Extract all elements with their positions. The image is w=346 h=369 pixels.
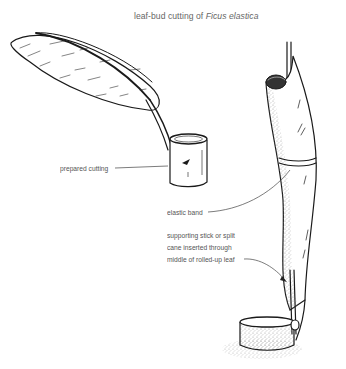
illustration xyxy=(0,0,346,369)
rolled-leaf-illustration xyxy=(266,42,316,340)
label-support-line-2: cane inserted through xyxy=(167,242,232,254)
label-support-line-3: middle of rolled-up leaf xyxy=(167,254,235,266)
leader-support xyxy=(244,259,285,280)
cutting-stub xyxy=(170,134,207,187)
leader-elastic-band xyxy=(208,170,290,212)
label-support-line-1: supporting stick or split xyxy=(167,230,235,242)
label-elastic-band: elastic band xyxy=(167,207,203,219)
leaf-illustration xyxy=(11,33,172,150)
label-prepared-cutting: prepared cutting xyxy=(60,163,108,175)
base-stub xyxy=(222,317,302,359)
leader-prepared-cutting xyxy=(115,166,168,168)
